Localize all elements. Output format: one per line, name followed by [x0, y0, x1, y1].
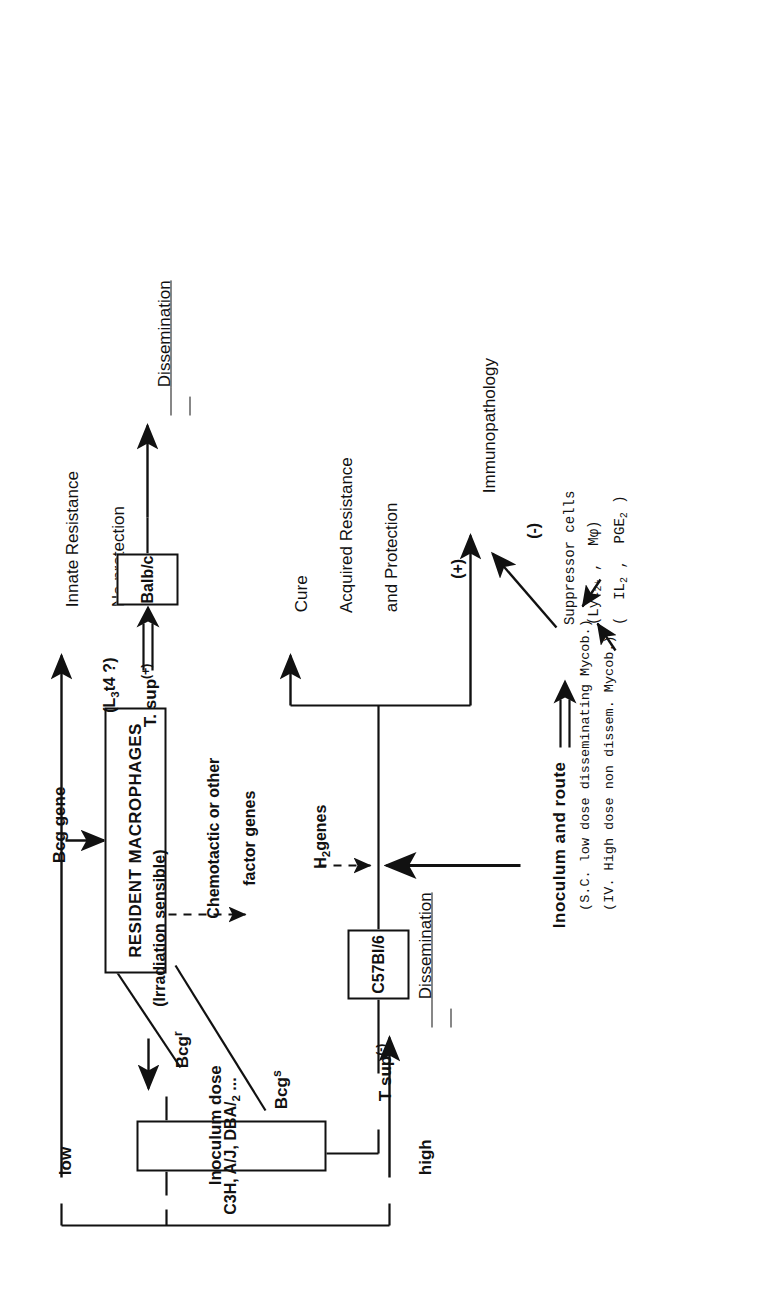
- label-l3t4: (L3t4 ?): [82, 657, 139, 739]
- label-outcome-immunopathology: Immunopathology: [460, 358, 517, 521]
- box-strain-c57bl6: C57Bl/6: [347, 929, 409, 999]
- label-bcg-gene: Bcg gene: [30, 786, 87, 891]
- label-chemotactic-factor-genes: Chemotactic or other factor genes: [186, 741, 276, 961]
- label-suppressor-mediators: ( IL2 , PGE2 ): [596, 495, 645, 675]
- label-outcome-cure: Cure Acquired Resistance and Protection: [268, 457, 425, 640]
- label-sign-minus: (-): [506, 522, 560, 565]
- label-sign-plus: (+): [430, 558, 484, 605]
- label-irradiation-sensible: (Irradiation sensible): [132, 849, 186, 1033]
- label-route-note-iv: (IV. High dose non dissem. Mycob.): [586, 635, 631, 959]
- label-h2-genes: H2genes: [293, 804, 350, 895]
- label-t-sup-minus: T sup(-): [355, 1043, 414, 1129]
- label-dose-high: high: [396, 1139, 453, 1203]
- flowchart-canvas: Bcg gene RESIDENT MACROPHAGES Chemotacti…: [0, 0, 773, 1295]
- box-strain-balbc: Balb/c: [116, 553, 178, 605]
- label-inoculum-dose: Inoculum dose: [186, 1065, 243, 1213]
- label-dissemination-balbc: Dissemination: [135, 280, 192, 415]
- label-dose-low: low: [36, 1146, 93, 1203]
- figure-page: Bcg gene RESIDENT MACROPHAGES Chemotacti…: [0, 0, 773, 1295]
